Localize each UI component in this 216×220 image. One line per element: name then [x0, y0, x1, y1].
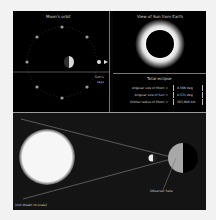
row-unit: km [191, 100, 196, 104]
sun-icon [19, 129, 75, 185]
row-value: 0.531 [177, 93, 186, 97]
row-label: Angular size of Moon = [132, 86, 168, 90]
row-value: 0.566 [177, 86, 186, 90]
eclipse-simulator: Moon's orbit Sun's rays [13, 11, 206, 210]
sun-rays-label: Sun's [95, 75, 104, 79]
info-panel: Total eclipse Angular size of Moon = 0.5… [113, 74, 206, 112]
earth-icon [64, 56, 74, 68]
row-unit: deg [187, 86, 193, 90]
moon-marker-icon [60, 96, 63, 99]
moon-marker-icon [85, 35, 88, 38]
moon-angular-size-row: Angular size of Moon = 0.566 deg [113, 85, 204, 92]
eclipse-view [113, 11, 206, 73]
moon-disk [146, 30, 174, 58]
moon-angular-size-field: 0.566 deg [173, 85, 203, 91]
moon-orbit-panel: Moon's orbit Sun's rays [13, 11, 109, 112]
orbit-diagram [13, 11, 109, 112]
row-value: 363,600 [177, 100, 190, 104]
sun-angular-size-field: 0.531 deg [173, 92, 203, 98]
moon-marker-icon [35, 35, 38, 38]
moon-icon [149, 155, 157, 162]
eclipse-type-title: Total eclipse [147, 76, 172, 81]
moon-marker-icon [85, 85, 88, 88]
observer-label: Observer here [150, 189, 173, 193]
scale-note: (not drawn to scale) [15, 203, 47, 207]
sun-view-panel: View of Sun from Earth [113, 11, 206, 73]
moon-position-markers [25, 25, 88, 99]
panel-divider [109, 11, 110, 112]
moon-orbital-radius-row: Orbital radius of Moon = 363,600 km [113, 99, 204, 106]
moon-marker-icon [60, 25, 63, 28]
row-label: Orbital radius of Moon = [130, 100, 168, 104]
row-unit: deg [187, 93, 193, 97]
earth-icon [168, 143, 198, 173]
row-label: Angular size of Sun = [135, 93, 168, 97]
moon-orbital-radius-field: 363,600 km [173, 99, 203, 105]
sun-rays-label-2: rays [97, 80, 104, 84]
moon-draggable[interactable] [97, 60, 101, 64]
scene-diagram [13, 113, 206, 210]
sun-rays-arrow-icon [104, 60, 108, 64]
sun-angular-size-row: Angular size of Sun = 0.531 deg [113, 92, 204, 99]
moon-marker-icon [25, 60, 28, 63]
scene-panel: Observer here (not drawn to scale) [13, 113, 206, 210]
moon-marker-icon [35, 85, 38, 88]
